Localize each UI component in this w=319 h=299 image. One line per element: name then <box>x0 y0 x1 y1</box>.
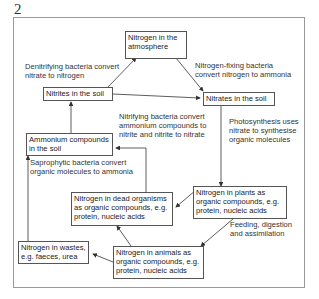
label-nitrogen-fixing: Nitrogen-fixing bacteria convert nitroge… <box>195 61 300 79</box>
box-nitrates-soil: Nitrates in the soil <box>203 92 275 106</box>
box-nitrogen-dead-organisms: Nitrogen in dead organisms as organic co… <box>71 192 173 226</box>
label-feeding: Feeding, digestion and assimilation <box>230 220 300 238</box>
label-saprophytic: Saprophytic bacteria convert organic mol… <box>30 158 138 176</box>
box-nitrites-soil: Nitrites in the soil <box>43 87 113 101</box>
box-ammonium-compounds: Ammonium compounds in the soil <box>26 133 113 156</box>
box-nitrogen-animals: Nitrogen in animals as organic compounds… <box>113 246 204 279</box>
label-photosynthesis: Photosynthesis uses nitrate to synthesis… <box>229 117 309 145</box>
box-nitrogen-wastes: Nitrogen in wastes, e.g. faeces, urea <box>18 241 89 264</box>
label-denitrifying: Denitrifying bacteria convert nitrate to… <box>25 62 127 80</box>
label-nitrifying: Nitrifying bacteria convert ammonium com… <box>119 112 227 140</box>
box-nitrogen-plants: Nitrogen in plants as organic compounds,… <box>193 186 287 219</box>
box-nitrogen-atmosphere: Nitrogen in the atmosphere <box>125 31 187 59</box>
